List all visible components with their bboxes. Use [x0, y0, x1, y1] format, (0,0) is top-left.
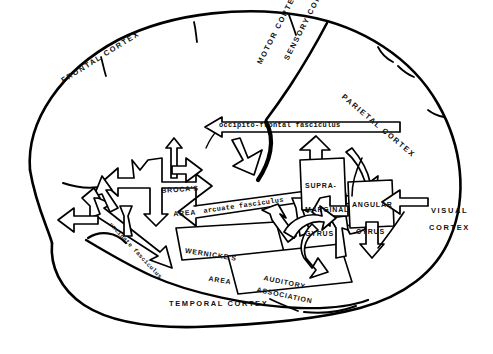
pathway-arrows	[58, 117, 428, 294]
diagram-canvas: FRONTAL CORTEX MOTOR CORTEX SENSORY CORT…	[0, 0, 493, 354]
arrow-occipitofrontal-to-broca	[232, 138, 262, 175]
arrow-occipito-frontal	[205, 117, 400, 137]
brain-illustration	[0, 0, 493, 354]
